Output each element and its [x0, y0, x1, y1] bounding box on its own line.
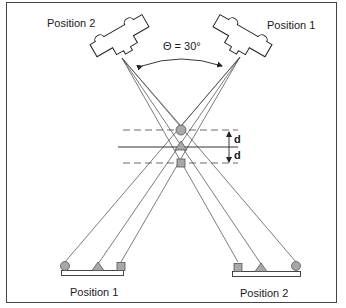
left-detector-triangle [92, 262, 104, 271]
right-detector-triangle [255, 263, 267, 272]
left-camera-icon [88, 11, 155, 67]
left-detector-square [117, 263, 125, 271]
left-camera-label: Position 2 [47, 17, 95, 29]
right-detector-label: Position 2 [240, 287, 288, 299]
center-triangle-marker [175, 141, 187, 150]
left-camera-rays [122, 58, 296, 264]
upper-circle-marker [176, 125, 186, 135]
left-detector-bar [62, 271, 124, 276]
d-upper-label: d [234, 133, 241, 145]
left-detector-label: Position 1 [70, 286, 118, 298]
right-camera-rays [65, 57, 240, 264]
left-detector-circle [61, 262, 70, 271]
right-detector-circle [292, 262, 301, 271]
right-camera-label: Position 1 [267, 19, 315, 31]
angle-arc [142, 59, 222, 66]
right-detector-bar [233, 272, 301, 277]
right-detector-square [234, 264, 242, 272]
right-camera-icon [207, 11, 274, 67]
stereo-geometry-diagram: d d Θ = 30° Position 2 Position 1 Positi… [0, 0, 346, 308]
angle-label: Θ = 30° [163, 40, 201, 52]
lower-square-marker [177, 159, 185, 167]
d-lower-label: d [234, 149, 241, 161]
